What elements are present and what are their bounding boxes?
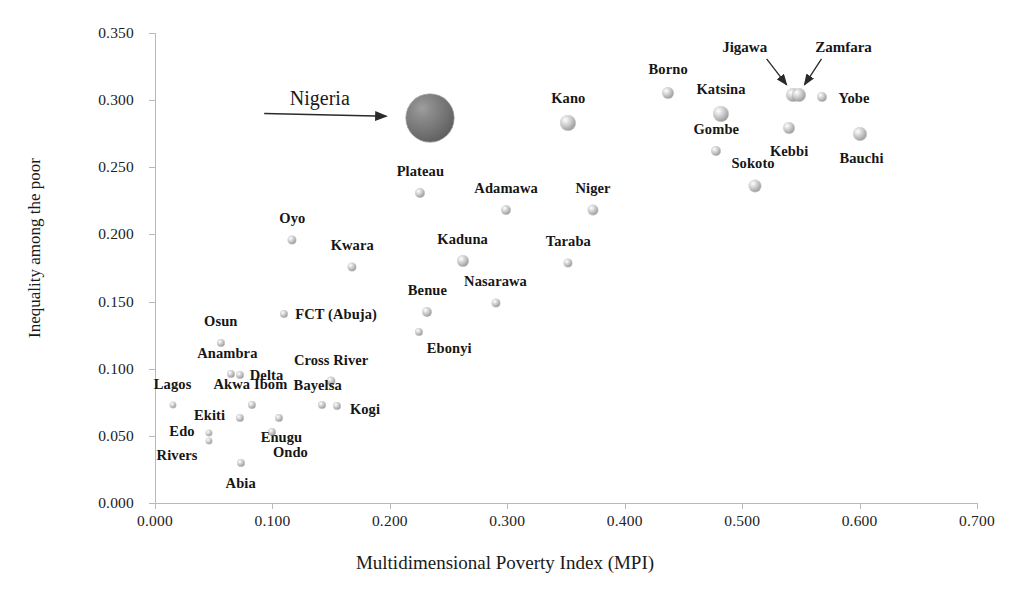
x-tick-label: 0.300 — [462, 512, 552, 530]
y-tick — [149, 503, 155, 504]
y-tick-label: 0.300 — [60, 91, 134, 109]
data-point-bayelsa[interactable] — [318, 401, 325, 408]
point-label-cross-river: Cross River — [294, 351, 369, 368]
data-point-benue[interactable] — [423, 308, 432, 317]
point-label-gombe: Gombe — [693, 121, 739, 138]
callout-label-nigeria: Nigeria — [290, 86, 350, 109]
point-label-osun: Osun — [204, 313, 237, 330]
point-label-taraba: Taraba — [546, 232, 591, 249]
y-tick-label: 0.200 — [60, 225, 134, 243]
point-label-lagos: Lagos — [154, 375, 192, 392]
data-point-rivers[interactable] — [206, 438, 212, 444]
x-axis-line — [155, 503, 977, 504]
point-label-ekiti: Ekiti — [194, 407, 225, 424]
point-label-kebbi: Kebbi — [770, 143, 808, 160]
x-tick — [390, 503, 391, 509]
x-tick — [507, 503, 508, 509]
data-point-kaduna[interactable] — [457, 256, 468, 267]
data-point-akwa-ibom[interactable] — [249, 401, 256, 408]
point-label-niger: Niger — [575, 180, 610, 197]
point-label-bayelsa: Bayelsa — [294, 376, 342, 393]
data-point-oyo[interactable] — [288, 236, 296, 244]
y-tick — [149, 436, 155, 437]
point-label-kwara: Kwara — [331, 236, 374, 253]
y-tick — [149, 100, 155, 101]
point-label-jigawa: Jigawa — [722, 38, 767, 55]
data-point-nigeria[interactable] — [406, 94, 454, 142]
data-point-gombe[interactable] — [712, 147, 721, 156]
point-label-plateau: Plateau — [397, 162, 444, 179]
y-tick-label: 0.100 — [60, 360, 134, 378]
y-tick — [149, 33, 155, 34]
callout-arrow — [767, 59, 787, 85]
point-label-borno: Borno — [649, 61, 688, 78]
data-point-adamawa[interactable] — [502, 206, 511, 215]
point-label-kogi: Kogi — [350, 401, 380, 418]
data-point-edo[interactable] — [206, 430, 212, 436]
x-axis-title: Multidimensional Poverty Index (MPI) — [0, 552, 1010, 574]
point-label-anambra: Anambra — [197, 345, 257, 362]
point-label-benue: Benue — [408, 282, 447, 299]
data-point-kogi[interactable] — [334, 403, 341, 410]
data-point-fct-abuja[interactable] — [281, 310, 288, 317]
y-tick — [149, 167, 155, 168]
y-tick — [149, 302, 155, 303]
callout-arrow — [805, 59, 822, 85]
point-label-kano: Kano — [551, 89, 585, 106]
data-point-abia[interactable] — [237, 459, 244, 466]
point-label-zamfara: Zamfara — [815, 38, 872, 55]
x-tick-label: 0.500 — [697, 512, 787, 530]
point-label-sokoto: Sokoto — [731, 155, 774, 172]
x-tick-label: 0.100 — [227, 512, 317, 530]
data-point-katsina[interactable] — [714, 106, 729, 121]
data-point-borno[interactable] — [663, 88, 674, 99]
data-point-taraba[interactable] — [564, 259, 572, 267]
data-point-zamfara[interactable] — [792, 88, 805, 101]
data-point-enugu[interactable] — [276, 415, 283, 422]
x-tick — [977, 503, 978, 509]
data-point-bauchi[interactable] — [853, 127, 866, 140]
y-tick-label: 0.000 — [60, 494, 134, 512]
data-point-kano[interactable] — [561, 115, 576, 130]
point-label-edo: Edo — [169, 423, 194, 440]
point-label-fct-abuja: FCT (Abuja) — [295, 305, 377, 322]
data-point-ekiti[interactable] — [236, 415, 243, 422]
y-axis-line — [155, 33, 156, 503]
data-point-kebbi[interactable] — [784, 123, 795, 134]
x-tick — [272, 503, 273, 509]
point-label-rivers: Rivers — [157, 447, 198, 464]
data-point-ondo[interactable] — [269, 428, 276, 435]
y-tick-label: 0.050 — [60, 427, 134, 445]
data-point-nasarawa[interactable] — [492, 299, 500, 307]
point-label-ebonyi: Ebonyi — [427, 340, 472, 357]
point-label-ondo: Ondo — [273, 443, 308, 460]
data-point-niger[interactable] — [588, 205, 598, 215]
x-tick-label: 0.200 — [345, 512, 435, 530]
y-axis-title: Inequality among the poor — [25, 98, 45, 398]
x-tick-label: 0.600 — [815, 512, 905, 530]
x-tick — [860, 503, 861, 509]
y-tick-label: 0.150 — [60, 293, 134, 311]
nigeria-callout-arrow — [264, 114, 386, 117]
y-tick-label: 0.350 — [60, 24, 134, 42]
data-point-plateau[interactable] — [416, 188, 425, 197]
x-tick — [155, 503, 156, 509]
point-label-katsina: Katsina — [696, 80, 745, 97]
x-tick-label: 0.000 — [110, 512, 200, 530]
point-label-oyo: Oyo — [279, 209, 305, 226]
data-point-kwara[interactable] — [348, 263, 356, 271]
data-point-sokoto[interactable] — [749, 180, 761, 192]
data-point-lagos[interactable] — [170, 402, 176, 408]
y-tick-label: 0.250 — [60, 158, 134, 176]
point-label-nasarawa: Nasarawa — [464, 272, 527, 289]
y-tick — [149, 369, 155, 370]
point-label-bauchi: Bauchi — [840, 149, 884, 166]
x-tick-label: 0.400 — [580, 512, 670, 530]
scatter-chart: 0.0000.1000.2000.3000.4000.5000.6000.700… — [0, 0, 1010, 606]
point-label-kaduna: Kaduna — [437, 231, 488, 248]
y-tick — [149, 234, 155, 235]
x-tick — [625, 503, 626, 509]
data-point-ebonyi[interactable] — [416, 329, 423, 336]
point-label-adamawa: Adamawa — [474, 180, 538, 197]
data-point-yobe[interactable] — [817, 93, 826, 102]
